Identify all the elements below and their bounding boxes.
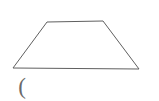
open-paren-mark: ( — [14, 74, 30, 100]
figure-canvas: ( — [0, 0, 159, 101]
trapezoid-shape — [13, 21, 139, 69]
